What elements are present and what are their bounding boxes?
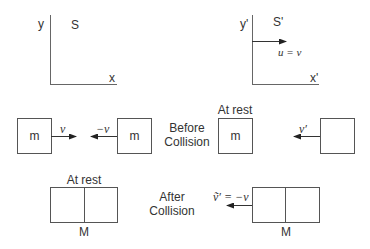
at-rest-label-after: At rest <box>59 174 109 186</box>
frame-s-prime-x-label: x' <box>310 72 318 84</box>
mass-M-left-label: M <box>74 226 94 238</box>
velocity-b-label: −v <box>96 123 109 135</box>
collision-diagram: y S x y' S' u = v x' m v −v m Before Col… <box>0 0 370 249</box>
frame-s-name: S <box>71 19 79 31</box>
after-left-combined <box>51 188 118 223</box>
before-collision-label-line2: Collision <box>157 136 217 148</box>
mass-rest-label: m <box>218 130 253 142</box>
after-collision-label-line2: Collision <box>142 205 202 217</box>
frame-s-y-label: y <box>38 18 44 30</box>
mass-M-right-label: M <box>276 226 296 238</box>
frame-s-prime-name: S' <box>273 16 283 28</box>
frame-s-axes <box>50 15 117 85</box>
velocity-a-label: v <box>60 123 65 135</box>
at-rest-label-before: At rest <box>210 104 260 116</box>
frame-s-prime-y-label: y' <box>240 18 248 30</box>
before-collision-label-line1: Before <box>157 122 217 134</box>
mass-a-label: m <box>17 130 52 142</box>
mass-box-moving <box>321 119 355 154</box>
after-collision-label-line1: After <box>142 191 202 203</box>
frame-s-x-label: x <box>109 72 115 84</box>
mass-b-label: m <box>117 130 152 142</box>
frame-velocity-label: u = v <box>278 47 301 58</box>
velocity-after-label: ṽ′ = −v <box>213 191 248 203</box>
velocity-v-prime-label: v′ <box>299 123 307 135</box>
